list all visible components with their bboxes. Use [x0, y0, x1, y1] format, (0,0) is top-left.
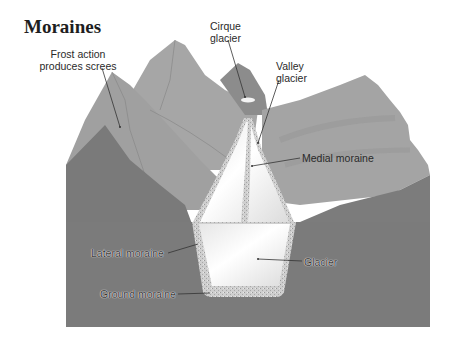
cirque-line2: glacier	[210, 32, 241, 44]
cirque-line1: Cirque	[210, 20, 241, 32]
lateral-moraine-label: Lateral moraine	[91, 247, 164, 259]
valley-glacier-label: Valley glacier	[276, 60, 307, 84]
ground-moraine-label: Ground moraine	[100, 288, 176, 300]
cirque-ice	[241, 98, 255, 103]
cirque-glacier-label: Cirque glacier	[210, 20, 241, 44]
frost-action-line2: produces screes	[28, 60, 128, 72]
valley-line1: Valley	[276, 60, 307, 72]
frost-action-line1: Frost action	[28, 48, 128, 60]
medial-moraine-label: Medial moraine	[302, 152, 374, 164]
valley-line2: glacier	[276, 72, 307, 84]
frost-action-label: Frost action produces screes	[28, 48, 128, 72]
glacier-label: Glacier	[304, 256, 337, 268]
